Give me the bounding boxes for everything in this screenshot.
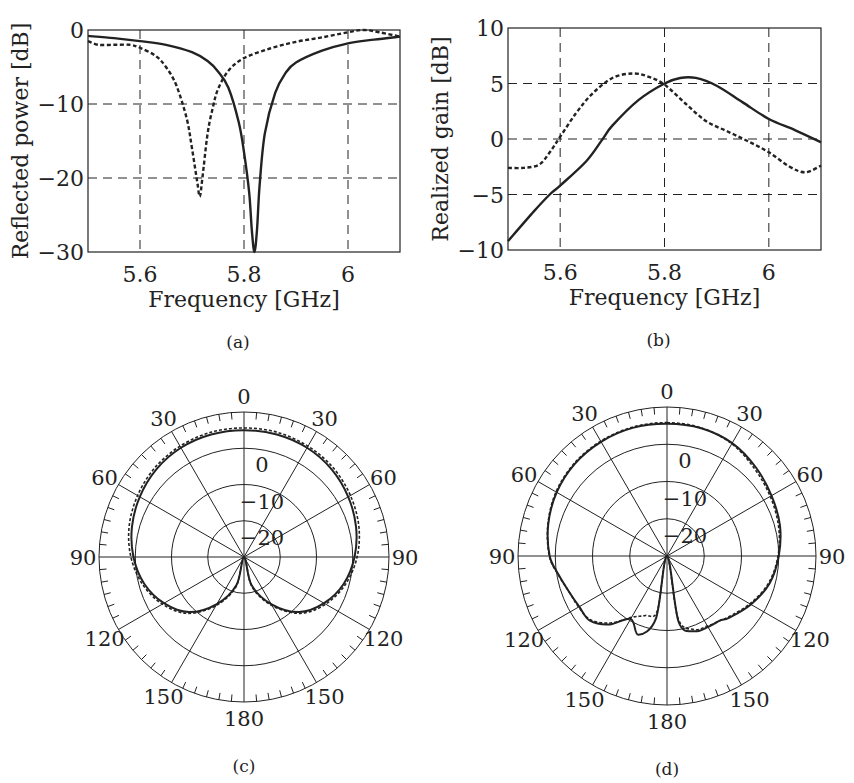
- polar-tick: [562, 656, 567, 661]
- angle-label: 150: [729, 688, 769, 712]
- polar-tick: [342, 655, 347, 660]
- polar-tick: [545, 637, 551, 641]
- angle-label: 120: [504, 628, 544, 652]
- subfigure-caption: (b): [646, 330, 670, 350]
- polar-tick: [369, 496, 375, 499]
- angle-label: 120: [363, 627, 403, 651]
- polar-tick: [758, 665, 762, 670]
- radial-label: −20: [240, 526, 284, 550]
- polar-tick: [582, 672, 586, 678]
- radial-label: −10: [240, 490, 284, 514]
- polar-tick: [101, 581, 108, 582]
- angle-label: 30: [571, 402, 598, 426]
- polar-tick: [206, 690, 208, 697]
- angle-label: 150: [143, 685, 183, 709]
- angle-label: 90: [489, 545, 516, 569]
- angle-label: 60: [511, 463, 538, 487]
- polar-tick: [519, 543, 526, 544]
- angle-label: 0: [660, 380, 673, 404]
- polar-tick: [323, 670, 327, 676]
- polar-tick: [532, 616, 538, 619]
- polar-tick: [628, 412, 630, 419]
- polar-tick: [641, 696, 642, 703]
- polar-tick: [104, 519, 111, 521]
- polar-tick: [194, 687, 196, 694]
- polar-tick: [231, 694, 232, 701]
- polar-tick: [377, 593, 384, 595]
- polar-tick: [133, 646, 138, 650]
- polar-tick: [268, 414, 269, 421]
- angle-label: 90: [70, 546, 97, 570]
- polar-tick: [804, 517, 811, 519]
- x-tick-label: 5.8: [647, 260, 682, 285]
- subfigure-caption: (d): [655, 759, 679, 779]
- polar-tick: [527, 605, 534, 607]
- polar-tick: [800, 505, 807, 507]
- polar-tick: [553, 647, 558, 651]
- plot-c-polar-pattern: 03060901201501801501209060300−10−20(c): [70, 385, 419, 776]
- angle-label: 30: [311, 407, 338, 431]
- polar-tick: [692, 696, 693, 703]
- polar-tick: [654, 697, 655, 704]
- polar-tick: [302, 426, 305, 432]
- polar-tick: [804, 593, 811, 595]
- y-axis-label: Realized gain [dB]: [428, 36, 453, 241]
- polar-tick: [704, 693, 706, 700]
- polar-tick: [616, 689, 618, 696]
- polar-tick: [113, 496, 119, 499]
- polar-tick: [776, 460, 781, 464]
- polar-tick: [562, 451, 567, 456]
- polar-tick: [641, 409, 642, 416]
- angle-label: 180: [224, 707, 264, 731]
- polar-tick: [108, 507, 115, 509]
- polar-tick: [350, 646, 355, 650]
- polar-tick: [333, 663, 337, 668]
- x-tick-label: 6: [341, 262, 355, 287]
- polar-tick: [357, 636, 363, 640]
- polar-tick: [571, 442, 575, 447]
- angle-label: 60: [91, 466, 118, 490]
- polar-tick: [104, 593, 111, 595]
- polar-tick: [141, 454, 146, 459]
- polar-tick: [380, 581, 387, 582]
- polar-tick: [380, 532, 387, 533]
- polar-tick: [783, 637, 789, 641]
- polar-tick: [571, 665, 575, 670]
- polar-tick: [141, 655, 146, 660]
- y-tick-label: −30: [38, 240, 84, 265]
- polar-tick: [520, 581, 527, 582]
- polar-tick: [113, 615, 119, 618]
- polar-tick: [767, 656, 772, 661]
- y-axis-label: Reflected power [dB]: [8, 23, 33, 260]
- polar-tick: [377, 519, 384, 521]
- polar-tick: [523, 593, 530, 595]
- y-tick-label: −5: [472, 183, 504, 208]
- polar-tick: [807, 581, 814, 582]
- x-axis-label: Frequency [GHz]: [569, 285, 761, 310]
- plot-d-polar-pattern: 03060901201501801501209060300−10−20(d): [489, 380, 846, 779]
- angle-label: 60: [370, 466, 397, 490]
- polar-tick: [527, 505, 534, 507]
- polar-tick: [256, 694, 257, 701]
- polar-tick: [323, 438, 327, 444]
- x-tick-label: 5.6: [123, 262, 158, 287]
- x-tick-label: 5.8: [227, 262, 262, 287]
- polar-tick: [125, 636, 131, 640]
- polar-tick: [280, 417, 282, 424]
- polar-tick: [800, 605, 807, 607]
- polar-tick: [776, 647, 781, 651]
- polar-tick: [604, 421, 607, 427]
- angle-label: 150: [304, 685, 344, 709]
- polar-tick: [748, 672, 752, 678]
- polar-tick: [520, 530, 527, 531]
- polar-tick: [582, 434, 586, 440]
- polar-tick: [767, 451, 772, 456]
- polar-tick: [616, 416, 618, 423]
- polar-tick: [161, 670, 165, 676]
- polar-tick: [807, 530, 814, 531]
- x-tick-label: 5.6: [543, 260, 578, 285]
- polar-tick: [100, 544, 107, 545]
- polar-tick: [381, 569, 388, 570]
- polar-tick: [553, 460, 558, 464]
- y-tick-label: 0: [490, 127, 504, 152]
